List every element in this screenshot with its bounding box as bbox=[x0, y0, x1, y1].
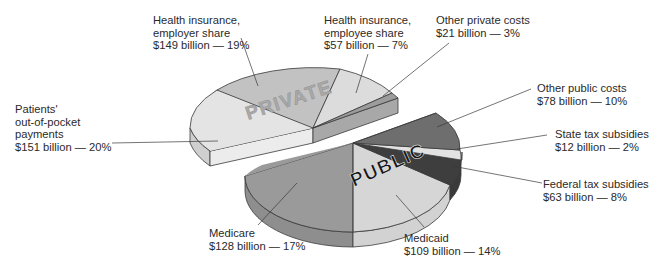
label-out-of-pocket: Patients' out-of-pocket payments $151 bi… bbox=[15, 103, 111, 153]
leader-other-public bbox=[437, 89, 531, 127]
label-employer-share: Health insurance, employer share $149 bi… bbox=[153, 14, 249, 52]
label-medicaid: Medicaid $109 billion — 14% bbox=[404, 232, 500, 257]
label-employee-share: Health insurance, employee share $57 bil… bbox=[324, 14, 411, 52]
leader-federal-tax bbox=[452, 166, 542, 183]
leader-state-tax bbox=[457, 135, 547, 149]
label-other-public: Other public costs $78 billion — 10% bbox=[537, 82, 627, 107]
label-other-private: Other private costs $21 billion — 3% bbox=[436, 14, 530, 39]
label-medicare: Medicare $128 billion — 17% bbox=[209, 227, 305, 252]
label-federal-tax: Federal tax subsidies $63 billion — 8% bbox=[543, 178, 649, 203]
label-state-tax: State tax subsidies $12 billion — 2% bbox=[555, 128, 649, 153]
